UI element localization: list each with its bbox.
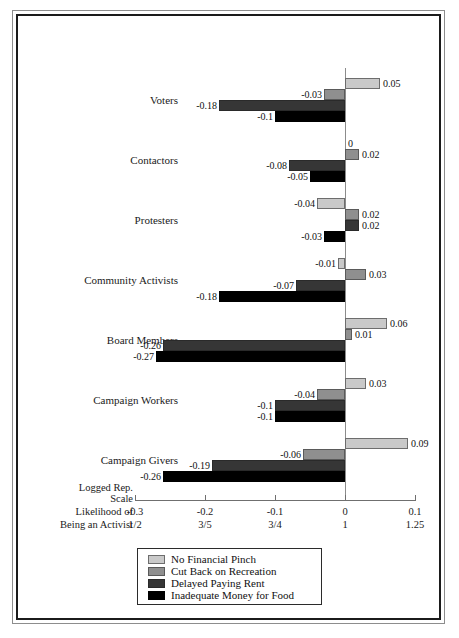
- bar: [219, 291, 345, 302]
- bar-value-label: -0.07: [0, 280, 294, 291]
- bar: [163, 340, 345, 351]
- bar: [156, 351, 345, 362]
- x-axis-tick-label-likelihood: 1.25: [393, 519, 437, 531]
- bar: [317, 198, 345, 209]
- bar: [345, 220, 359, 231]
- bar-value-label: -0.06: [0, 449, 301, 460]
- bar: [345, 209, 359, 220]
- bar: [345, 149, 359, 160]
- x-axis-tick: [275, 495, 276, 501]
- bar: [324, 231, 345, 242]
- bar-value-label: 0.02: [362, 220, 380, 231]
- legend-item-label: Cut Back on Recreation: [171, 565, 276, 577]
- x-axis-tick-label-logged: -0.1: [253, 506, 297, 518]
- bar: [345, 438, 408, 449]
- bar: [163, 471, 345, 482]
- bar: [275, 411, 345, 422]
- figure-container: -0.31/2-0.23/5-0.13/4010.11.25Logged Rep…: [0, 0, 459, 638]
- bar-value-label: 0: [348, 138, 353, 149]
- bar-value-label: -0.19: [0, 460, 210, 471]
- bar: [345, 378, 366, 389]
- bar: [310, 171, 345, 182]
- bar: [345, 329, 352, 340]
- bar-value-label: 0.06: [390, 318, 408, 329]
- x-axis-tick-label-logged: -0.2: [183, 506, 227, 518]
- bar: [219, 100, 345, 111]
- x-axis-tick-label-likelihood: 1: [323, 519, 367, 531]
- chart-legend: No Financial PinchCut Back on Recreation…: [137, 548, 322, 605]
- bar-value-label: 0.02: [362, 209, 380, 220]
- bar-chart-plot-area: -0.31/2-0.23/5-0.13/4010.11.25Logged Rep…: [0, 0, 459, 638]
- bar-value-label: -0.03: [0, 89, 322, 100]
- legend-item[interactable]: Cut Back on Recreation: [148, 565, 321, 577]
- bar: [275, 400, 345, 411]
- bar-value-label: -0.18: [0, 100, 217, 111]
- bar-value-label: -0.05: [0, 171, 308, 182]
- x-axis-tick-label-likelihood: 3/5: [183, 519, 227, 531]
- bar: [345, 78, 380, 89]
- bar-value-label: -0.03: [0, 231, 322, 242]
- x-axis-tick: [205, 495, 206, 501]
- bar: [296, 280, 345, 291]
- legend-item-label: Delayed Paying Rent: [171, 577, 264, 589]
- bar-value-label: 0.05: [383, 78, 401, 89]
- bar: [303, 449, 345, 460]
- bar-value-label: -0.18: [0, 291, 217, 302]
- bar: [345, 318, 387, 329]
- bar-value-label: 0.01: [355, 329, 373, 340]
- bar: [289, 160, 345, 171]
- x-axis-tick: [135, 495, 136, 501]
- bar-value-label: -0.26: [0, 471, 161, 482]
- legend-item[interactable]: Delayed Paying Rent: [148, 577, 321, 589]
- bar: [324, 89, 345, 100]
- x-axis-caption-scale: Scale: [40, 493, 133, 505]
- bar-value-label: 0.03: [369, 269, 387, 280]
- x-axis-tick-label-likelihood: 3/4: [253, 519, 297, 531]
- bar-value-label: 0.02: [362, 149, 380, 160]
- x-axis-caption-likelihood: Likelihood of: [40, 506, 133, 518]
- bar-value-label: -0.04: [0, 389, 315, 400]
- bar-value-label: -0.01: [0, 258, 336, 269]
- legend-color-swatch: [148, 579, 165, 588]
- bar-value-label: -0.08: [0, 160, 287, 171]
- legend-item[interactable]: No Financial Pinch: [148, 553, 321, 565]
- bar: [317, 389, 345, 400]
- legend-color-swatch: [148, 591, 165, 600]
- bar-value-label: -0.1: [0, 411, 273, 422]
- bar-value-label: 0.03: [369, 378, 387, 389]
- legend-item-label: No Financial Pinch: [171, 553, 256, 565]
- x-axis-tick-label-logged: 0.1: [393, 506, 437, 518]
- x-axis-tick: [415, 495, 416, 501]
- legend-color-swatch: [148, 567, 165, 576]
- bar: [275, 111, 345, 122]
- x-axis-tick: [345, 495, 346, 501]
- bar-value-label: -0.1: [0, 400, 273, 411]
- x-axis-caption-activist: Being an Activist: [40, 519, 133, 531]
- bar-value-label: -0.26: [0, 340, 161, 351]
- category-label: Protesters: [20, 214, 178, 226]
- legend-item-label: Inadequate Money for Food: [171, 589, 294, 601]
- zero-baseline-axis: [345, 68, 346, 500]
- bar-value-label: 0.09: [411, 438, 429, 449]
- bar-value-label: -0.04: [0, 198, 315, 209]
- legend-color-swatch: [148, 555, 165, 564]
- legend-item[interactable]: Inadequate Money for Food: [148, 589, 321, 601]
- x-axis-tick-label-logged: 0: [323, 506, 367, 518]
- bar-value-label: -0.27: [0, 351, 154, 362]
- bar: [338, 258, 345, 269]
- bar-value-label: -0.1: [0, 111, 273, 122]
- bar: [212, 460, 345, 471]
- bar: [345, 269, 366, 280]
